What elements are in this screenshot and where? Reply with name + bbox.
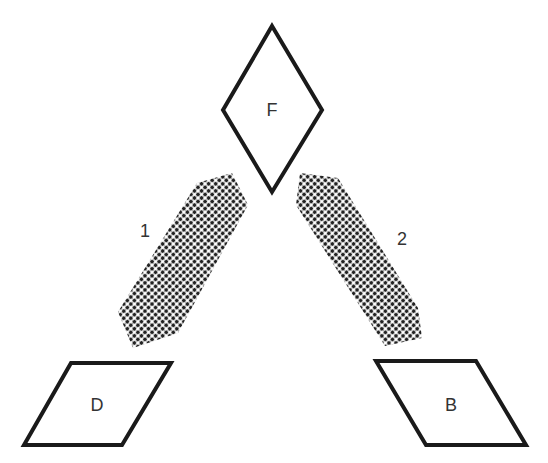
connector-band-2: [296, 173, 422, 346]
node-b-label: B: [445, 395, 457, 415]
node-b[interactable]: B: [376, 361, 526, 445]
node-d-label: D: [91, 395, 104, 415]
node-d[interactable]: D: [24, 363, 171, 445]
connector-label-1: 1: [140, 221, 150, 241]
node-f[interactable]: F: [223, 26, 322, 192]
connector-band-1: [118, 173, 248, 348]
diagram-canvas: F D B 1 2: [0, 0, 548, 463]
connector-label-2: 2: [397, 229, 407, 249]
node-f-label: F: [267, 100, 278, 120]
